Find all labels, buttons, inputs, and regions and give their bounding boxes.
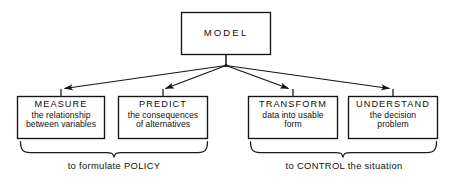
canvas-background bbox=[0, 0, 455, 190]
diagram-canvas bbox=[0, 0, 455, 190]
model-diagram: MODEL MEASURE the relationship between v… bbox=[0, 0, 455, 190]
